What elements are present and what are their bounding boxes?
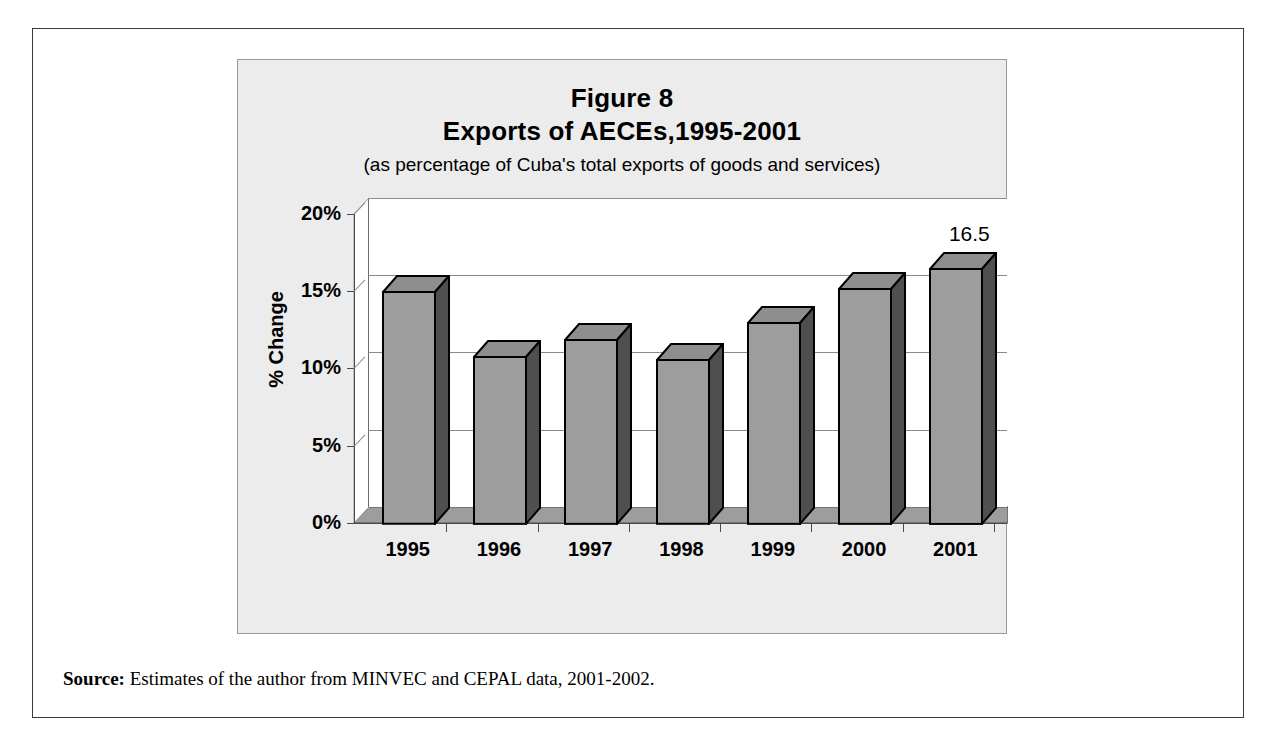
x-label-1998: 1998 (637, 538, 727, 561)
bar-1995 (382, 275, 448, 523)
source-label: Source: (63, 668, 125, 689)
plot-area: 20% 15% 10% 5% 0% % Change 16.5 19951996… (238, 60, 1008, 635)
y-label-5: 5% (273, 434, 341, 457)
source-note: Source: Estimates of the author from MIN… (63, 668, 654, 690)
bar-shape (382, 275, 450, 525)
bar-2001 (929, 252, 995, 523)
x-label-2001: 2001 (910, 538, 1000, 561)
bar-1996 (473, 340, 539, 523)
y-tick-0 (347, 523, 354, 524)
x-tick-1997 (629, 523, 630, 532)
bar-shape (564, 323, 632, 525)
bar-1997 (564, 323, 630, 523)
bar-shape (656, 343, 724, 525)
x-label-1996: 1996 (454, 538, 544, 561)
x-label-1999: 1999 (728, 538, 818, 561)
x-tick-2000 (903, 523, 904, 532)
x-tick-1999 (811, 523, 812, 532)
x-label-2000: 2000 (819, 538, 909, 561)
bar-shape (929, 252, 997, 525)
y-leader-20 (354, 202, 366, 214)
y-leader-15 (354, 279, 366, 291)
bar-shape (473, 340, 541, 525)
y-label-20: 20% (273, 202, 341, 225)
x-tick-1996 (538, 523, 539, 532)
bar-value-label-2001: 16.5 (909, 222, 1029, 246)
x-tick-1998 (720, 523, 721, 532)
y-axis-title: % Change (265, 260, 288, 420)
bar-1999 (747, 306, 813, 523)
source-text: Estimates of the author from MINVEC and … (125, 668, 654, 689)
figure-border: Figure 8 Exports of AECEs,1995-2001 (as … (32, 28, 1244, 718)
x-label-1995: 1995 (363, 538, 453, 561)
bar-2000 (838, 272, 904, 523)
x-tick-2001 (994, 523, 995, 532)
y-leader-10 (354, 356, 366, 368)
x-tick-1995 (446, 523, 447, 532)
y-label-0: 0% (273, 511, 341, 534)
x-label-1997: 1997 (545, 538, 635, 561)
chart-panel: Figure 8 Exports of AECEs,1995-2001 (as … (237, 59, 1007, 634)
gridline-15 (368, 275, 1007, 276)
bar-shape (838, 272, 906, 525)
bar-shape (747, 306, 815, 525)
bar-1998 (656, 343, 722, 523)
gridline-20 (368, 198, 1007, 199)
y-leader-5 (354, 434, 366, 446)
